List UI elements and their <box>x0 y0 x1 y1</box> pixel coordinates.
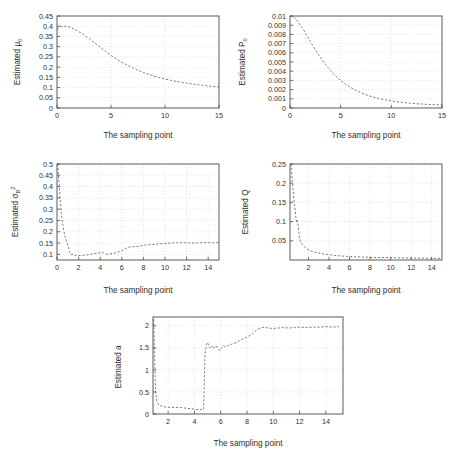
chart-sigma-b2: 024681012140.10.150.20.250.30.350.40.450… <box>0 150 228 305</box>
chart-q: 24681012140.050.10.150.20.25The sampling… <box>228 150 451 305</box>
y-tick-label: 0.4 <box>43 22 53 31</box>
plot-area-sigma-b2: 024681012140.10.150.20.250.30.350.40.450… <box>10 160 219 295</box>
axes-frame <box>153 317 343 414</box>
y-axis-label-subscript: 0 <box>17 39 23 42</box>
data-curve-p0 <box>290 16 442 105</box>
y-tick-label: 0.05 <box>39 93 53 102</box>
x-axis-label: The sampling point <box>103 286 173 295</box>
y-tick-label: 0.45 <box>39 171 53 180</box>
x-tick-label: 10 <box>387 111 395 120</box>
y-tick-label: 0.3 <box>43 42 53 51</box>
x-tick-label: 14 <box>204 263 212 272</box>
y-tick-label: 0.003 <box>268 76 286 85</box>
y-tick-label: 0.4 <box>43 182 53 191</box>
data-curve-sigma_b2 <box>58 164 219 256</box>
x-tick-label: 8 <box>141 263 145 272</box>
y-axis-label-main: Estimated a <box>114 345 123 389</box>
y-tick-label: 0 <box>282 104 286 113</box>
data-curve-q <box>291 164 442 258</box>
x-tick-label: 0 <box>288 111 292 120</box>
data-curve-a <box>154 319 339 409</box>
plot-area-p0: 05101500.0010.0020.0030.0040.0050.0060.0… <box>238 12 446 140</box>
x-tick-label: 12 <box>296 417 304 426</box>
data-curve-mu0 <box>57 26 219 87</box>
y-tick-label: 0.45 <box>39 12 53 21</box>
axes-frame <box>57 164 219 260</box>
x-tick-label: 4 <box>327 263 331 272</box>
x-tick-label: 2 <box>77 263 81 272</box>
figure-panel: 05101500.050.10.150.20.250.30.350.40.45T… <box>0 0 451 457</box>
y-tick-label: 0 <box>49 104 53 113</box>
x-tick-label: 5 <box>339 111 343 120</box>
axes-frame <box>57 16 219 108</box>
y-tick-label: 0.3 <box>43 205 53 214</box>
x-axis-label: The sampling point <box>331 286 401 295</box>
x-tick-label: 8 <box>368 263 372 272</box>
subplot-a: 246810121400.511.52The sampling pointEst… <box>105 305 355 457</box>
y-tick-label: 0.1 <box>43 83 53 92</box>
y-tick-label: 0.15 <box>272 198 286 207</box>
y-axis-label: Estimated σB2 <box>10 187 22 238</box>
x-tick-label: 12 <box>183 263 191 272</box>
y-tick-label: 0.2 <box>276 179 286 188</box>
y-tick-label: 0.5 <box>43 160 53 169</box>
y-tick-label: 0.5 <box>139 388 149 397</box>
x-tick-label: 10 <box>269 417 277 426</box>
y-tick-label: 0.004 <box>268 67 286 76</box>
x-tick-label: 14 <box>322 417 330 426</box>
y-axis-label: Estimated P0 <box>238 38 248 85</box>
y-axis-label-subscript: 0 <box>242 38 248 41</box>
chart-p0: 05101500.0010.0020.0030.0040.0050.0060.0… <box>228 0 451 150</box>
plot-area-mu0: 05101500.050.10.150.20.250.30.350.40.45T… <box>13 12 223 140</box>
y-axis-label: Estimated μ0 <box>13 39 23 86</box>
y-tick-label: 0.01 <box>272 12 286 21</box>
y-axis-label: Estimated a <box>114 345 123 389</box>
x-tick-label: 12 <box>407 263 415 272</box>
subplot-mu0: 05101500.050.10.150.20.250.30.350.40.45T… <box>0 0 228 150</box>
y-tick-label: 0.1 <box>43 250 53 259</box>
x-tick-label: 2 <box>166 417 170 426</box>
y-tick-label: 0.008 <box>268 30 286 39</box>
x-tick-label: 6 <box>348 263 352 272</box>
x-axis-label: The sampling point <box>213 439 283 448</box>
x-tick-label: 0 <box>55 263 59 272</box>
x-tick-label: 4 <box>192 417 196 426</box>
y-tick-label: 0.009 <box>268 21 286 30</box>
y-tick-label: 0 <box>145 410 149 419</box>
y-axis-label-main: Estimated σ <box>11 194 20 238</box>
y-tick-label: 0.25 <box>272 160 286 169</box>
x-tick-label: 5 <box>109 111 113 120</box>
y-tick-label: 0.25 <box>39 216 53 225</box>
y-tick-label: 0.15 <box>39 239 53 248</box>
x-tick-label: 6 <box>219 417 223 426</box>
x-tick-label: 2 <box>306 263 310 272</box>
y-tick-label: 0.05 <box>272 236 286 245</box>
y-tick-label: 0.35 <box>39 193 53 202</box>
plot-area-q: 24681012140.050.10.150.20.25The sampling… <box>241 160 442 295</box>
plot-area-a: 246810121400.511.52The sampling pointEst… <box>114 317 343 448</box>
y-tick-label: 0.002 <box>268 85 286 94</box>
y-axis-label-subscript: B <box>15 190 21 194</box>
x-axis-label: The sampling point <box>331 131 401 140</box>
x-tick-label: 15 <box>438 111 446 120</box>
subplot-q: 24681012140.050.10.150.20.25The sampling… <box>228 150 451 305</box>
y-axis-label-main: Estimated P <box>238 41 247 86</box>
x-axis-label: The sampling point <box>103 131 173 140</box>
x-tick-label: 0 <box>55 111 59 120</box>
x-tick-label: 10 <box>387 263 395 272</box>
y-tick-label: 0.15 <box>39 73 53 82</box>
y-tick-label: 0.1 <box>276 217 286 226</box>
y-tick-label: 0.2 <box>43 227 53 236</box>
y-tick-label: 0.2 <box>43 63 53 72</box>
y-axis-label-main: Estimated Q <box>241 189 250 234</box>
chart-a: 246810121400.511.52The sampling pointEst… <box>105 305 355 457</box>
x-tick-label: 10 <box>161 111 169 120</box>
x-tick-label: 6 <box>120 263 124 272</box>
y-axis-label: Estimated Q <box>241 189 250 234</box>
y-tick-label: 0.25 <box>39 52 53 61</box>
x-tick-label: 14 <box>428 263 436 272</box>
y-tick-label: 0.001 <box>268 94 286 103</box>
x-tick-label: 10 <box>161 263 169 272</box>
x-tick-label: 4 <box>98 263 102 272</box>
y-tick-label: 1 <box>145 366 149 375</box>
